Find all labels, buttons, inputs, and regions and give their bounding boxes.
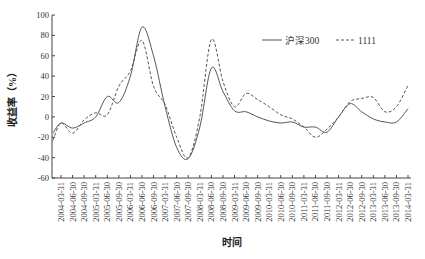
- legend-label-hs300: 沪深300: [285, 35, 320, 46]
- x-tick-label: 2011-06-30: [310, 182, 320, 221]
- x-tick-label: 2009-06-30: [241, 182, 251, 222]
- x-tick-label: 2004-09-30: [79, 182, 89, 222]
- plot-lines: [53, 27, 408, 160]
- x-tick-label: 2004-03-31: [56, 182, 66, 222]
- x-tick-label: 2012-06-30: [345, 182, 355, 222]
- x-tick-label: 2007-03-31: [160, 182, 170, 222]
- x-tick-label: 2006-09-30: [149, 182, 159, 222]
- y-tick-label: -60: [38, 173, 49, 183]
- x-tick-label: 2012-09-30: [357, 182, 367, 222]
- x-tick-label: 2013-09-30: [391, 182, 401, 222]
- x-tick-label: 2007-09-30: [183, 182, 193, 222]
- x-tick-label: 2011-03-31: [299, 182, 309, 221]
- x-tick-label: 2008-06-30: [206, 182, 216, 222]
- y-tick-label: 20: [41, 92, 50, 102]
- x-tick-label: 2008-09-30: [218, 182, 228, 222]
- y-tick-label: 80: [41, 30, 50, 40]
- line-chart: 100806040200-20-40-60 2004-03-312004-06-…: [0, 0, 425, 259]
- x-tick-label: 2011-09-30: [322, 182, 332, 221]
- x-tick-label: 2008-03-31: [195, 182, 205, 222]
- y-tick-label: 60: [41, 51, 50, 61]
- x-tick-label: 2004-06-30: [68, 182, 78, 222]
- x-tick-label: 2010-09-30: [287, 182, 297, 222]
- x-tick-label: 2006-03-31: [125, 182, 135, 222]
- x-tick-label: 2010-06-30: [276, 182, 286, 222]
- x-tick-label: 2005-03-31: [91, 182, 101, 222]
- y-tick-label: 40: [41, 71, 50, 81]
- series-line-1111: [53, 39, 408, 158]
- x-tick-label: 2007-06-30: [172, 182, 182, 222]
- y-tick-label: 100: [36, 10, 49, 20]
- x-axis-title: 时间: [222, 236, 242, 248]
- x-axis-ticks: 2004-03-312004-06-302004-09-302005-03-31…: [56, 175, 413, 222]
- legend: 沪深300 1111: [262, 35, 376, 46]
- y-axis-title: 收益率（%）: [6, 67, 18, 127]
- x-tick-label: 2010-03-31: [264, 182, 274, 222]
- x-tick-label: 2012-03-31: [334, 182, 344, 222]
- series-line-hs300: [53, 27, 408, 160]
- x-tick-label: 2005-06-30: [102, 182, 112, 222]
- x-tick-label: 2014-03-31: [403, 182, 413, 222]
- y-tick-label: -20: [38, 132, 49, 142]
- x-tick-label: 2005-09-30: [114, 182, 124, 222]
- y-tick-label: -40: [38, 153, 49, 163]
- legend-label-1111: 1111: [358, 36, 376, 46]
- x-tick-label: 2006-06-30: [137, 182, 147, 222]
- x-tick-label: 2013-06-30: [380, 182, 390, 222]
- x-tick-label: 2009-09-30: [253, 182, 263, 222]
- y-tick-label: 0: [45, 112, 49, 122]
- x-tick-label: 2013-03-31: [368, 182, 378, 222]
- x-tick-label: 2009-03-31: [230, 182, 240, 222]
